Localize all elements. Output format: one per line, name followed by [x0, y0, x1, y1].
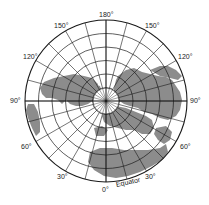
meridian-label-60-east: 60°	[180, 143, 191, 150]
landmass-india	[154, 126, 172, 144]
meridian-label-0: 0°	[102, 186, 109, 193]
meridian-label-30-west: 30°	[57, 173, 68, 180]
landmass-africa	[88, 144, 168, 178]
meridian-label-120-west: 120°	[23, 53, 37, 60]
meridian-label-90-west: 90°	[10, 97, 21, 104]
meridian-label-30-east: 30°	[145, 173, 156, 180]
meridian-label-150-east: 150°	[145, 22, 159, 29]
meridian-label-150-west: 150°	[54, 22, 68, 29]
meridian-label-180: 180°	[99, 11, 113, 18]
polar-map	[0, 0, 209, 205]
landmass-central-america	[26, 104, 40, 136]
meridian-label-60-west: 60°	[21, 143, 32, 150]
landmass-group	[26, 66, 182, 178]
meridian-label-120-east: 120°	[178, 53, 192, 60]
meridian-label-90-east: 90°	[190, 97, 201, 104]
